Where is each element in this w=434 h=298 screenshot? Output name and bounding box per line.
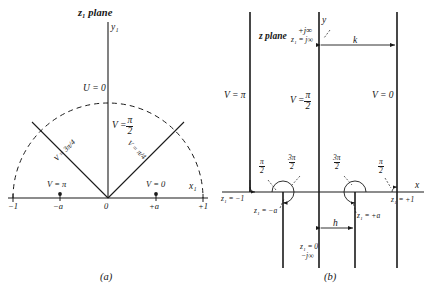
fraction-numerator: π bbox=[126, 116, 133, 126]
panel-b-angle-right-pi-over-2: π 2 bbox=[378, 158, 384, 174]
panel-b-label-V-pi-over-2: V = π 2 bbox=[290, 91, 311, 111]
panel-a-xtick-plus-1: +1 bbox=[198, 202, 208, 211]
panel-a-title: z₁ plane bbox=[78, 8, 112, 19]
caption-a: (a) bbox=[100, 272, 112, 283]
panel-b-title: z plane bbox=[259, 32, 287, 42]
panel-b-label-V-pi-over-2-text: V = bbox=[290, 96, 304, 106]
panel-a-fraction-pi-2: π 2 bbox=[126, 116, 133, 136]
panel-b-dimension-h: h bbox=[333, 219, 338, 229]
panel-b-angle-left-pi-over-2: π 2 bbox=[259, 158, 265, 174]
panel-b-label-plus-j-infinity: +j∞ bbox=[298, 26, 312, 35]
fraction-numerator: π bbox=[304, 91, 311, 101]
fraction-numerator: π bbox=[259, 158, 265, 166]
conformal-mapping-figure: z₁ plane y₁ x₁ U = 0 V = π 2 V = 3π/4 V … bbox=[0, 0, 434, 298]
panel-a-y-axis-label: y₁ bbox=[111, 23, 119, 33]
fraction-denominator: 2 bbox=[289, 162, 295, 171]
panel-b-label-z1-equals-j-infinity: z₁ = j∞ bbox=[291, 36, 313, 44]
fraction-denominator: 2 bbox=[126, 126, 133, 137]
panel-b-label-V-pi: V = π bbox=[224, 91, 246, 101]
panel-b-x-axis-label: x bbox=[415, 181, 419, 191]
panel-b-fraction-right-pi-2: π 2 bbox=[378, 158, 384, 174]
fraction-denominator: 2 bbox=[378, 166, 384, 175]
panel-b-point-z1-minus-1: z₁ = −1 bbox=[221, 195, 244, 203]
fraction-denominator: 2 bbox=[304, 101, 311, 112]
panel-a-label-V-pi-over-2: V = π 2 bbox=[112, 116, 133, 136]
panel-a-xtick-zero: 0 bbox=[104, 202, 108, 211]
caption-b: (b) bbox=[324, 272, 336, 283]
panel-b-fraction-pi-2: π 2 bbox=[304, 91, 311, 111]
panel-a-x-axis-label: x₁ bbox=[189, 182, 197, 192]
panel-b-angle-left-3pi-over-2: 3π 2 bbox=[287, 154, 297, 170]
fraction-numerator: 3π bbox=[287, 154, 297, 162]
panel-a-xtick-plus-a: +a bbox=[149, 202, 159, 211]
panel-a-label-V-0: V = 0 bbox=[146, 180, 165, 189]
panel-a-artwork bbox=[8, 22, 208, 202]
panel-b-fraction-left-pi-2: π 2 bbox=[259, 158, 265, 174]
panel-b-label-minus-j-infinity: −j∞ bbox=[301, 252, 314, 260]
panel-a-xtick-minus-a: −a bbox=[53, 202, 63, 211]
panel-b-artwork bbox=[222, 12, 424, 268]
panel-a-label-U0: U = 0 bbox=[83, 84, 106, 94]
panel-b-fraction-left-3pi-2: 3π 2 bbox=[287, 154, 297, 170]
panel-b-angle-right-3pi-over-2: 3π 2 bbox=[332, 154, 342, 170]
panel-b-point-z1-minus-a: z₁ = −a bbox=[254, 207, 277, 215]
panel-b-point-z1-plus-a: z₁ = +a bbox=[357, 212, 380, 220]
panel-a-xtick-minus-1: −1 bbox=[8, 202, 18, 211]
fraction-denominator: 2 bbox=[259, 166, 265, 175]
panel-a-label-V-pi-over-2-text: V = bbox=[112, 121, 126, 131]
panel-b-y-axis-label: y bbox=[322, 16, 326, 26]
panel-b-fraction-right-3pi-2: 3π 2 bbox=[332, 154, 342, 170]
fraction-denominator: 2 bbox=[334, 162, 340, 171]
panel-b-label-V-0: V = 0 bbox=[372, 91, 394, 101]
panel-a-label-V-pi: V = π bbox=[47, 180, 66, 189]
fraction-numerator: π bbox=[378, 158, 384, 166]
panel-b-point-z1-plus-1: z₁ = +1 bbox=[391, 196, 414, 204]
fraction-numerator: 3π bbox=[332, 154, 342, 162]
panel-b-dimension-k: k bbox=[353, 36, 357, 46]
panel-b-label-z1-equals-0: z₁ = 0 bbox=[300, 243, 318, 251]
